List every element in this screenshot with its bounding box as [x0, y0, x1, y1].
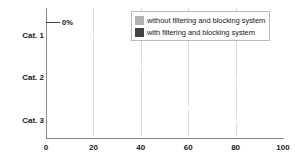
x-tick-label-0: 0 [44, 143, 48, 152]
bar-value-label-dark-cat-3: 65% [181, 103, 196, 112]
bar-value-label-light-cat-3: 87% [233, 117, 248, 126]
bar-value-label-light-cat-2: 84% [226, 74, 241, 83]
bar-light-cat-3: 87% [46, 114, 252, 128]
legend-item-without-filtering: without filtering and blocking system [135, 15, 265, 25]
legend-swatch-icon-light [135, 16, 144, 25]
bar-chart: Cat. 1 0% 23% Cat. 2 44% 84% Cat. 3 [0, 0, 295, 164]
bar-value-label-dark-cat-1: 0% [62, 18, 73, 27]
category-label-cat-1: Cat. 1 [22, 31, 44, 40]
bar-value-label-dark-cat-2: 44% [132, 60, 147, 69]
category-label-cat-3: Cat. 3 [22, 116, 44, 125]
legend-swatch-icon-dark [135, 28, 144, 37]
x-tick-label-80: 80 [231, 143, 240, 152]
x-axis-line [46, 138, 284, 139]
x-tick-label-100: 100 [276, 143, 289, 152]
bar-value-label-light-cat-1: 23% [82, 32, 97, 41]
bar-dark-cat-3: 65% [46, 100, 200, 114]
x-tick-label-40: 40 [136, 143, 145, 152]
zero-leader-line [46, 22, 60, 23]
legend-label-without-filtering: without filtering and blocking system [147, 16, 265, 25]
category-label-cat-2: Cat. 2 [22, 73, 44, 82]
bar-dark-cat-2: 44% [46, 57, 150, 71]
x-tick-label-60: 60 [184, 143, 193, 152]
bar-light-cat-2: 84% [46, 71, 245, 85]
legend-item-with-filtering: with filtering and blocking system [135, 27, 265, 37]
legend: without filtering and blocking system wi… [131, 11, 270, 41]
legend-label-with-filtering: with filtering and blocking system [147, 28, 255, 37]
bar-light-cat-1: 23% [46, 29, 101, 43]
x-tick-label-20: 20 [89, 143, 98, 152]
